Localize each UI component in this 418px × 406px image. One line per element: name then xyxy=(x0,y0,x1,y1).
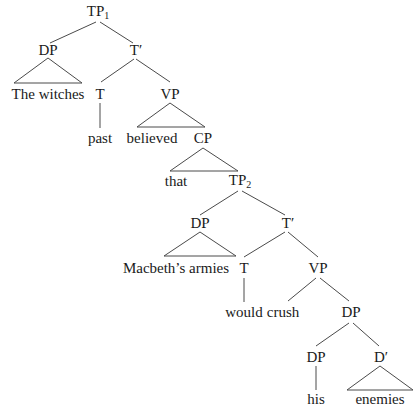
node-t1: T xyxy=(95,87,104,102)
branch-dpobj-dp xyxy=(316,323,349,346)
leaf-macbeths-armies: Macbeth’s armies xyxy=(123,261,229,276)
leaf-enemies: enemies xyxy=(355,392,404,406)
branch-dpobj-dbar xyxy=(353,323,379,346)
branch-tp1-tbar xyxy=(100,22,133,43)
branch-vp2-crush xyxy=(288,278,316,301)
syntax-tree: TP1 DP T′ The witches T VP past believed… xyxy=(0,0,418,406)
leaf-past: past xyxy=(88,131,112,146)
node-dp-object: DP xyxy=(341,305,360,320)
triangle-dp-subject xyxy=(14,58,82,83)
node-vp1: VP xyxy=(160,87,179,102)
leaf-crush: crush xyxy=(267,305,300,320)
node-tbar2: T′ xyxy=(282,216,294,231)
triangle-dp-macbeth xyxy=(164,232,236,256)
triangle-cp xyxy=(170,148,238,171)
node-tp2-label: TP xyxy=(229,172,247,188)
branch-tbar2-t xyxy=(244,232,285,257)
leaf-that: that xyxy=(165,174,188,189)
branch-tbar2-vp xyxy=(288,232,318,257)
node-tp1: TP1 xyxy=(87,4,110,21)
branch-tp2-dp xyxy=(200,191,238,215)
node-t2: T xyxy=(239,261,248,276)
leaf-his: his xyxy=(307,392,325,406)
branch-tbar1-t xyxy=(101,59,134,82)
node-tp1-label: TP xyxy=(87,3,105,19)
leaf-believed: believed xyxy=(127,131,178,146)
branch-vp2-dp xyxy=(320,278,349,301)
node-tp1-subscript: 1 xyxy=(104,10,109,21)
node-tbar1: T′ xyxy=(130,43,142,58)
node-cp: CP xyxy=(194,131,212,146)
leaf-would: would xyxy=(225,305,263,320)
triangle-vp1 xyxy=(137,103,205,127)
tree-branches xyxy=(0,0,418,406)
branch-tp1-dp xyxy=(50,22,96,43)
node-vp2: VP xyxy=(308,261,327,276)
branch-tbar1-vp xyxy=(136,59,170,82)
branch-tp2-tbar xyxy=(242,191,285,215)
node-dp-his: DP xyxy=(306,350,325,365)
node-dp-macbeth: DP xyxy=(190,216,209,231)
node-tp2: TP2 xyxy=(229,173,252,190)
leaf-the-witches: The witches xyxy=(12,87,85,102)
node-tp2-subscript: 2 xyxy=(246,179,251,190)
triangle-dbar xyxy=(347,366,413,390)
node-dbar: D′ xyxy=(374,350,388,365)
node-dp-subject: DP xyxy=(38,43,57,58)
